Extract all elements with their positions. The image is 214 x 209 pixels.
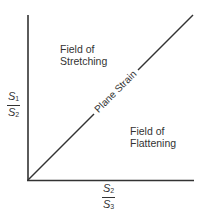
x-axis-denominator: S3 bbox=[103, 199, 114, 209]
flattening-line2: Flattening bbox=[130, 137, 176, 149]
x-axis-label: S2 S3 bbox=[102, 183, 115, 209]
y-axis-label: S1 S2 bbox=[7, 91, 20, 120]
diagram-canvas: Plane Strain bbox=[0, 0, 214, 209]
field-of-stretching-label: Field of Stretching bbox=[60, 43, 107, 67]
stretching-line2: Stretching bbox=[60, 55, 107, 67]
x-axis-numerator: S2 bbox=[103, 183, 114, 196]
plane-strain-line-upper bbox=[138, 15, 193, 70]
plane-strain-line-lower bbox=[28, 114, 94, 180]
flattening-line1: Field of bbox=[130, 125, 176, 137]
y-axis-denominator: S2 bbox=[8, 107, 19, 120]
y-axis-numerator: S1 bbox=[8, 91, 19, 104]
stretching-line1: Field of bbox=[60, 43, 107, 55]
plane-strain-label: Plane Strain bbox=[92, 68, 138, 114]
field-of-flattening-label: Field of Flattening bbox=[130, 125, 176, 149]
